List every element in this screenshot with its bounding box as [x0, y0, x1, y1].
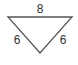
top-side-label: 8	[37, 2, 44, 16]
triangle-diagram: 8 6 6	[0, 0, 78, 65]
right-side-label: 6	[60, 33, 67, 47]
left-side-label: 6	[14, 33, 21, 47]
